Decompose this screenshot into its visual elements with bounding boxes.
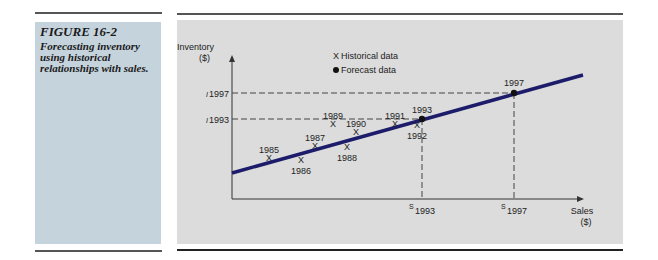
y-axis-label: Inventory [177, 42, 215, 52]
historical-label: 1988 [337, 153, 357, 163]
legend-forecast-dot-icon [333, 67, 339, 73]
historical-label: 1985 [259, 145, 279, 155]
x-tick-prefix: S [501, 203, 506, 210]
forecast-label-1997: 1997 [504, 78, 524, 88]
historical-marker: X [344, 142, 350, 152]
y-tick-prefix: I [206, 117, 208, 124]
historical-label: 1987 [305, 133, 325, 143]
x-tick-prefix: S [409, 203, 414, 210]
historical-label: 1989 [323, 111, 343, 121]
x-axis-unit: ($) [581, 217, 592, 227]
chart: Inventory ($) Sales ($) I 1997 I 1993 S … [0, 0, 658, 260]
y-tick-1993: 1993 [209, 115, 229, 125]
historical-points: X1985X1986X1987X1988X1989X1990X1991X1992 [259, 111, 427, 176]
historical-marker: X [298, 155, 304, 165]
y-axis-arrow-icon [229, 55, 235, 62]
regression-line [232, 75, 583, 173]
legend-historical-marker: X [333, 51, 339, 61]
x-axis-arrow-icon [577, 196, 584, 202]
y-tick-1997: 1997 [209, 89, 229, 99]
x-tick-1997: 1997 [507, 206, 527, 216]
y-axis-unit: ($) [199, 53, 210, 63]
forecast-point-1997 [511, 90, 517, 96]
x-tick-1993: 1993 [415, 206, 435, 216]
historical-label: 1990 [346, 119, 366, 129]
historical-label: 1992 [407, 131, 427, 141]
historical-label: 1991 [385, 111, 405, 121]
forecast-label-1993: 1993 [412, 105, 432, 115]
y-tick-prefix: I [206, 91, 208, 98]
forecast-point-1993 [419, 116, 425, 122]
historical-label: 1986 [291, 166, 311, 176]
legend-historical-label: Historical data [341, 51, 398, 61]
historical-marker: X [414, 120, 420, 130]
legend-forecast-label: Forecast data [341, 65, 396, 75]
x-axis-label: Sales [571, 206, 594, 216]
